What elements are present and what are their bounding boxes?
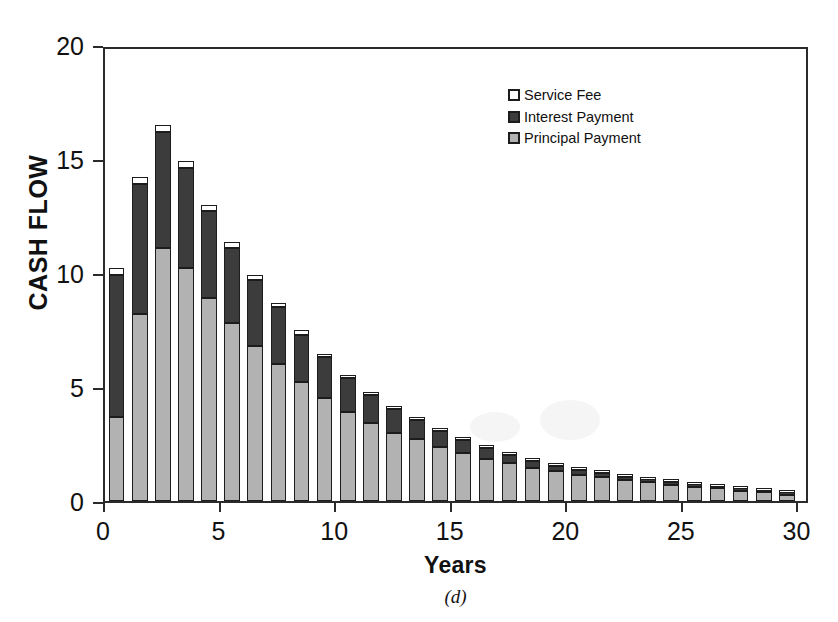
bar-segment-service bbox=[340, 375, 356, 378]
bar-segment-principal bbox=[271, 364, 287, 501]
bar-segment-principal bbox=[548, 471, 564, 501]
x-tick-label: 5 bbox=[184, 519, 254, 544]
y-tick-mark bbox=[93, 160, 103, 162]
y-tick-label: 5 bbox=[14, 376, 84, 401]
bar-segment-principal bbox=[455, 453, 471, 501]
x-tick-mark bbox=[103, 503, 105, 512]
x-tick-label: 25 bbox=[646, 519, 716, 544]
bar-segment-interest bbox=[271, 307, 287, 364]
bar-segment-principal bbox=[363, 423, 379, 501]
x-tick-label: 0 bbox=[68, 519, 138, 544]
bar-segment-interest bbox=[479, 448, 495, 459]
bar-segment-principal bbox=[617, 480, 633, 501]
x-tick-mark bbox=[334, 503, 336, 512]
bar-segment-service bbox=[224, 242, 240, 248]
bar-segment-principal bbox=[779, 495, 795, 501]
bar-segment-service bbox=[409, 417, 425, 420]
bar-segment-principal bbox=[409, 439, 425, 501]
bar-segment-interest bbox=[502, 455, 518, 464]
x-tick-mark bbox=[450, 503, 452, 512]
bar-segment-interest bbox=[548, 466, 564, 472]
bar-segment-service bbox=[779, 490, 795, 493]
bar-segment-principal bbox=[432, 447, 448, 501]
bar-segment-principal bbox=[178, 268, 194, 501]
bar-segment-service bbox=[317, 354, 333, 358]
y-tick-mark bbox=[93, 274, 103, 276]
bar-segment-principal bbox=[201, 298, 217, 501]
bar-segment-service bbox=[294, 330, 310, 334]
bar-segment-interest bbox=[525, 461, 541, 468]
x-axis-title: Years bbox=[103, 552, 808, 579]
figure-caption: (d) bbox=[103, 586, 808, 608]
x-tick-mark bbox=[565, 503, 567, 512]
y-tick-mark bbox=[93, 388, 103, 390]
bar-segment-interest bbox=[317, 357, 333, 398]
bar-segment-interest bbox=[224, 248, 240, 323]
bar-segment-service bbox=[271, 303, 287, 308]
bar-segment-principal bbox=[710, 488, 726, 501]
bar-segment-principal bbox=[386, 433, 402, 501]
bar-segment-service bbox=[455, 437, 471, 440]
y-tick-mark bbox=[93, 46, 103, 48]
bar-segment-principal bbox=[109, 417, 125, 501]
x-tick-mark bbox=[681, 503, 683, 512]
bar-segment-service bbox=[132, 177, 148, 184]
bar-segment-service bbox=[687, 482, 703, 485]
bar-segment-principal bbox=[247, 346, 263, 501]
bar-segment-interest bbox=[294, 335, 310, 383]
bar-segment-service bbox=[247, 275, 263, 280]
legend-item-0: Service Fee bbox=[508, 88, 641, 103]
x-tick-label: 15 bbox=[415, 519, 485, 544]
y-tick-label: 10 bbox=[14, 262, 84, 287]
bar-segment-service bbox=[386, 406, 402, 409]
y-tick-label: 15 bbox=[14, 148, 84, 173]
bar-segment-interest bbox=[617, 477, 633, 480]
figure-container: CASH FLOW 05101520 051015202530 Years (d… bbox=[0, 0, 838, 622]
bar-segment-principal bbox=[317, 398, 333, 501]
bar-segment-interest bbox=[340, 378, 356, 412]
bar-segment-principal bbox=[525, 468, 541, 501]
plot-area bbox=[105, 49, 806, 501]
bar-segment-service bbox=[479, 445, 495, 448]
y-tick-label: 20 bbox=[14, 34, 84, 59]
bar-segment-principal bbox=[132, 314, 148, 501]
x-tick-mark bbox=[219, 503, 221, 512]
bar-segment-principal bbox=[340, 412, 356, 501]
x-tick-label: 30 bbox=[761, 519, 831, 544]
bar-segment-service bbox=[432, 428, 448, 431]
bar-segment-service bbox=[640, 477, 656, 480]
legend-item-2: Principal Payment bbox=[508, 131, 641, 146]
bar-segment-interest bbox=[640, 479, 656, 482]
bar-segment-interest bbox=[594, 473, 610, 477]
bar-segment-interest bbox=[178, 168, 194, 268]
bar-segment-principal bbox=[479, 459, 495, 501]
bar-segment-principal bbox=[594, 477, 610, 501]
bar-segment-principal bbox=[224, 323, 240, 501]
chart-legend: Service FeeInterest PaymentPrincipal Pay… bbox=[508, 88, 641, 153]
y-tick-label: 0 bbox=[14, 490, 84, 515]
bar-segment-principal bbox=[155, 248, 171, 501]
bar-segment-service bbox=[155, 125, 171, 132]
x-tick-label: 10 bbox=[299, 519, 369, 544]
bar-segment-principal bbox=[571, 475, 587, 501]
bar-segment-service bbox=[617, 474, 633, 477]
bar-segment-service bbox=[178, 161, 194, 168]
bar-segment-service bbox=[756, 488, 772, 491]
bar-segment-interest bbox=[155, 132, 171, 248]
legend-item-1: Interest Payment bbox=[508, 110, 641, 125]
bar-segment-service bbox=[710, 484, 726, 487]
bar-segment-principal bbox=[663, 485, 679, 501]
bar-segment-service bbox=[571, 467, 587, 470]
bar-segment-interest bbox=[386, 409, 402, 433]
bar-segment-interest bbox=[432, 431, 448, 447]
bar-segment-service bbox=[594, 470, 610, 473]
bar-segment-interest bbox=[201, 211, 217, 298]
bar-segment-service bbox=[201, 205, 217, 212]
bar-segment-interest bbox=[132, 184, 148, 314]
bar-segment-principal bbox=[756, 492, 772, 501]
bar-segment-interest bbox=[247, 280, 263, 346]
bar-segment-interest bbox=[455, 440, 471, 453]
bar-segment-service bbox=[363, 392, 379, 395]
plot-frame bbox=[103, 47, 808, 503]
legend-swatch-icon bbox=[508, 89, 520, 101]
